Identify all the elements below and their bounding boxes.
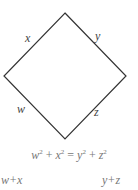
eq-plus: +: [89, 148, 96, 162]
sum-w-x: w+x: [1, 173, 22, 188]
eq-exp: 2: [103, 148, 107, 156]
edge-label-z: z: [94, 106, 99, 118]
eq-exp: 2: [82, 148, 86, 156]
diamond-outline: [4, 13, 126, 139]
equation: w2 + x2 = y2 + z2: [0, 148, 138, 163]
sum-y-z: y+z: [102, 173, 120, 188]
eq-plus: +: [46, 148, 53, 162]
edge-label-y: y: [95, 30, 100, 42]
eq-equals: =: [67, 148, 74, 162]
eq-exp: 2: [39, 148, 43, 156]
eq-exp: 2: [61, 148, 65, 156]
edge-label-w: w: [17, 103, 25, 115]
edge-label-x: x: [25, 32, 30, 44]
eq-var-w: w: [31, 148, 39, 162]
